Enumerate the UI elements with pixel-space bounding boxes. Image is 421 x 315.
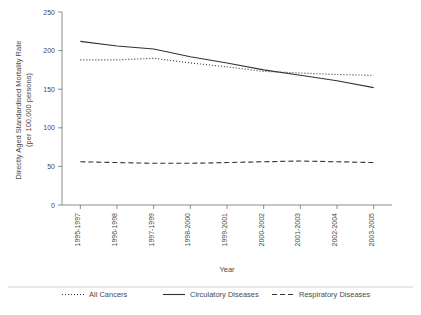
y-axis-ticks: 050100150200250 [43, 9, 62, 209]
legend-label-respiratory-diseases: Respiratory Diseases [299, 290, 371, 299]
y-tick-label: 0 [51, 202, 55, 209]
x-tick-label: 1995-1997 [74, 213, 81, 247]
y-axis-title-line2: (per 100,000 persons) [24, 73, 33, 147]
plot-area [62, 12, 392, 205]
x-axis-ticks: 1995-19971996-19981997-19991998-20001999… [74, 205, 374, 246]
y-tick-label: 100 [43, 124, 55, 131]
x-axis-title: Year [219, 265, 235, 274]
x-tick-label: 1999-2001 [221, 213, 228, 247]
x-tick-label: 2000-2002 [258, 213, 265, 247]
x-tick-label: 1996-1998 [111, 213, 118, 247]
y-axis-title-line1: Directly Aged Standardised Mortality Rat… [14, 41, 23, 180]
x-tick-label: 2002-2004 [331, 213, 338, 247]
x-tick-label: 2003-2005 [368, 213, 375, 247]
legend-label-all-cancers: All Cancers [89, 290, 128, 299]
y-tick-label: 200 [43, 47, 55, 54]
mortality-rate-line-chart: 050100150200250 1995-19971996-19981997-1… [0, 0, 421, 315]
x-tick-label: 1998-2000 [184, 213, 191, 247]
y-tick-label: 150 [43, 86, 55, 93]
chart-container: 050100150200250 1995-19971996-19981997-1… [0, 0, 421, 315]
x-tick-label: 2001-2003 [294, 213, 301, 247]
y-tick-label: 50 [47, 163, 55, 170]
chart-legend: All CancersCirculatory DiseasesRespirato… [62, 290, 371, 299]
legend-label-circulatory-diseases: Circulatory Diseases [190, 290, 259, 299]
y-tick-label: 250 [43, 9, 55, 16]
x-tick-label: 1997-1999 [148, 213, 155, 247]
